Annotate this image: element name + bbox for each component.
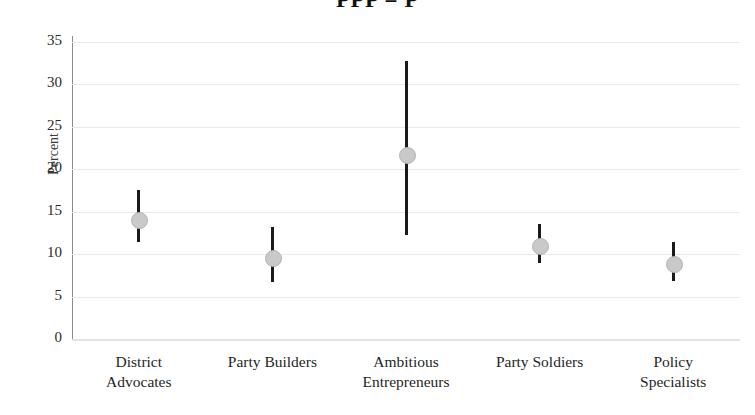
x-label-line: Ambitious bbox=[331, 352, 481, 372]
x-axis-labels: DistrictAdvocatesParty BuildersAmbitious… bbox=[72, 352, 740, 412]
x-label-line: Policy bbox=[598, 352, 748, 372]
plot-area bbox=[72, 30, 740, 348]
x-axis-category-label: Party Soldiers bbox=[465, 352, 615, 372]
y-tick-label: 15 bbox=[22, 202, 62, 219]
chart-title: PPP = P bbox=[0, 0, 755, 12]
data-point-group bbox=[500, 30, 580, 348]
x-label-line: Party Builders bbox=[197, 352, 347, 372]
data-point-marker bbox=[532, 238, 549, 255]
y-tick-label: 10 bbox=[22, 244, 62, 261]
y-tick-label: 20 bbox=[22, 159, 62, 176]
y-tick-label: 25 bbox=[22, 117, 62, 134]
x-axis-category-label: Party Builders bbox=[197, 352, 347, 372]
x-axis-category-label: DistrictAdvocates bbox=[64, 352, 214, 392]
y-tick-label: 30 bbox=[22, 74, 62, 91]
data-point-marker bbox=[666, 256, 683, 273]
chart-figure: PPP = P Percent 05101520253035 DistrictA… bbox=[0, 0, 755, 415]
x-label-line: Specialists bbox=[598, 372, 748, 392]
data-point-marker bbox=[131, 212, 148, 229]
data-point-marker bbox=[265, 250, 282, 267]
x-label-line: Entrepreneurs bbox=[331, 372, 481, 392]
data-point-group bbox=[99, 30, 179, 348]
data-point-marker bbox=[399, 147, 416, 164]
x-axis-category-label: AmbitiousEntrepreneurs bbox=[331, 352, 481, 392]
x-axis-category-label: PolicySpecialists bbox=[598, 352, 748, 392]
y-axis-label: Percent bbox=[46, 94, 62, 214]
y-tick-label: 5 bbox=[22, 287, 62, 304]
x-label-line: District bbox=[64, 352, 214, 372]
y-tick-label: 0 bbox=[22, 329, 62, 346]
data-point-group bbox=[633, 30, 713, 348]
y-tick-label: 35 bbox=[22, 32, 62, 49]
x-label-line: Advocates bbox=[64, 372, 214, 392]
x-label-line: Party Soldiers bbox=[465, 352, 615, 372]
data-point-group bbox=[232, 30, 312, 348]
data-point-group bbox=[366, 30, 446, 348]
